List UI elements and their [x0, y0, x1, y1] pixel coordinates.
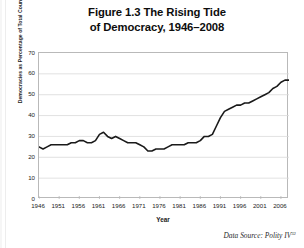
chart-x-tickmarks — [39, 196, 281, 199]
figure-page: Figure 1.3 The Rising Tide of Democracy,… — [0, 0, 304, 248]
y-tick-label: 40 — [13, 111, 35, 118]
x-tick-label: 2006 — [267, 202, 293, 209]
x-axis-title: Year — [38, 216, 288, 223]
y-tick-label: 0 — [13, 195, 35, 202]
chart-plot-area — [38, 52, 288, 198]
y-tick-label: 70 — [13, 49, 35, 56]
y-tick-label: 50 — [13, 90, 35, 97]
y-tick-label: 20 — [13, 153, 35, 160]
data-source-text: Data Source: Polity IV — [224, 231, 292, 240]
line-chart-svg — [39, 53, 289, 199]
y-axis-title: Democracies as Percentage of Total Count… — [17, 0, 23, 119]
y-tick-label: 10 — [13, 174, 35, 181]
data-source-note: Data Source: Polity IV32 — [224, 231, 296, 240]
page-edge-shadow — [0, 0, 2, 248]
figure-title-line-1: Figure 1.3 The Rising Tide — [52, 5, 262, 20]
chart-gridlines — [39, 74, 289, 178]
figure-title: Figure 1.3 The Rising Tide of Democracy,… — [52, 5, 262, 35]
y-tick-label: 30 — [13, 132, 35, 139]
y-tick-label: 60 — [13, 69, 35, 76]
figure-title-line-2: of Democracy, 1946–2008 — [52, 20, 262, 35]
page-edge-line — [5, 0, 6, 248]
data-source-footnote-marker: 32 — [291, 231, 296, 236]
